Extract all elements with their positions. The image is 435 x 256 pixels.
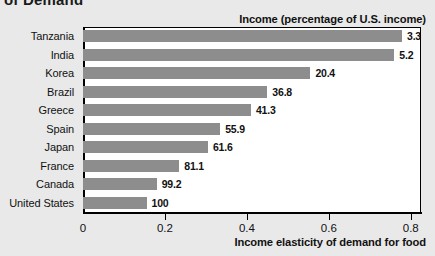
- figure-heading: of Demand: [4, 0, 83, 5]
- x-axis-tick-label: 0.6: [321, 222, 337, 234]
- bar-value-label: 5.2: [399, 49, 413, 61]
- x-axis-tick-label: 0: [80, 222, 86, 234]
- bar-row: 41.3: [83, 101, 421, 120]
- bar-row: 100: [83, 194, 421, 213]
- category-label: France: [0, 157, 78, 176]
- bar-row: 5.2: [83, 46, 421, 65]
- x-axis-tick-label: 0.8: [403, 222, 419, 234]
- bar-value-label: 100: [152, 197, 169, 209]
- x-axis-tick: [247, 214, 248, 220]
- bar-value-label: 99.2: [162, 178, 182, 190]
- x-axis-tick-label: 0.4: [239, 222, 255, 234]
- x-axis-title: Income elasticity of demand for food: [234, 236, 426, 248]
- category-label: Japan: [0, 138, 78, 157]
- bar-value-label: 36.8: [272, 86, 292, 98]
- category-label: India: [0, 46, 78, 65]
- bar: [83, 30, 402, 42]
- bar-value-label: 61.6: [213, 141, 233, 153]
- x-axis: 00.20.40.60.8: [83, 212, 422, 214]
- bar-row: 81.1: [83, 157, 421, 176]
- bar-row: 55.9: [83, 120, 421, 139]
- category-axis-labels: TanzaniaIndiaKoreaBrazilGreeceSpainJapan…: [0, 27, 78, 212]
- bar-row: 20.4: [83, 64, 421, 83]
- x-axis-tick: [411, 214, 412, 220]
- bar-row: 36.8: [83, 83, 421, 102]
- bar: [83, 123, 220, 135]
- bar-value-label: 41.3: [256, 104, 276, 116]
- bar: [83, 104, 251, 116]
- bar-row: 61.6: [83, 138, 421, 157]
- bar: [83, 141, 208, 153]
- bars-container: 3.35.220.436.841.355.961.681.199.2100: [83, 27, 421, 212]
- x-axis-tick: [165, 214, 166, 220]
- bar-value-label: 3.3: [407, 30, 421, 42]
- bar: [83, 86, 267, 98]
- bar-value-label: 81.1: [184, 160, 204, 172]
- category-label: Spain: [0, 120, 78, 139]
- bar-row: 99.2: [83, 175, 421, 194]
- bar-value-label: 55.9: [225, 123, 245, 135]
- category-label: Canada: [0, 175, 78, 194]
- category-label: Brazil: [0, 83, 78, 102]
- chart-figure: of Demand Income (percentage of U.S. inc…: [0, 0, 435, 256]
- income-series-label: Income (percentage of U.S. income): [239, 13, 426, 25]
- category-label: United States: [0, 194, 78, 213]
- category-label: Greece: [0, 101, 78, 120]
- bar: [83, 178, 157, 190]
- bar: [83, 160, 179, 172]
- bar: [83, 49, 394, 61]
- x-axis-tick-label: 0.2: [157, 222, 173, 234]
- bar-row: 3.3: [83, 27, 421, 46]
- x-axis-tick: [329, 214, 330, 220]
- category-label: Korea: [0, 64, 78, 83]
- bar: [83, 197, 147, 209]
- bar: [83, 67, 310, 79]
- bar-value-label: 20.4: [315, 67, 335, 79]
- category-label: Tanzania: [0, 27, 78, 46]
